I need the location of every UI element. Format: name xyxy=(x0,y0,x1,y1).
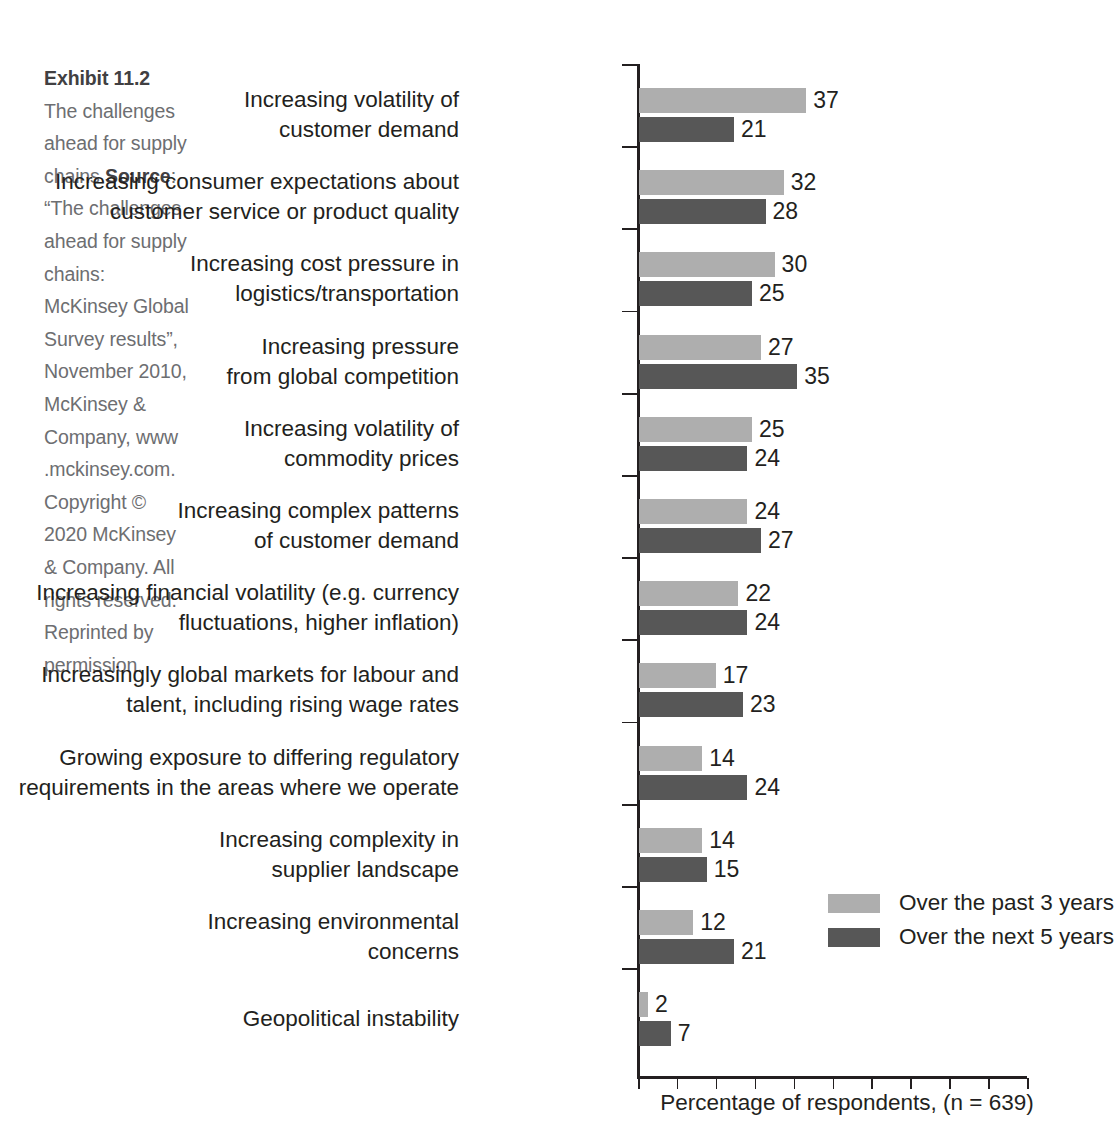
x-axis-tick xyxy=(949,1078,951,1089)
bar-group: Increasing volatility of customer demand… xyxy=(0,88,1116,142)
category-label: Geopolitical instability xyxy=(0,1004,459,1034)
bar-past-3-years xyxy=(639,417,752,442)
y-axis-tick xyxy=(622,557,638,559)
y-axis-tick xyxy=(622,722,638,724)
x-axis-tick xyxy=(638,1078,640,1089)
category-label: Increasing environmental concerns xyxy=(0,907,459,967)
category-label: Increasing cost pressure in logistics/tr… xyxy=(0,249,459,309)
bar-past-3-years xyxy=(639,170,784,195)
category-label: Increasing complexity in supplier landsc… xyxy=(0,825,459,885)
bar-value-label: 15 xyxy=(714,857,740,882)
bar-past-3-years xyxy=(639,499,747,524)
bar-group: Increasing pressure from global competit… xyxy=(0,335,1116,389)
bar-past-3-years xyxy=(639,663,716,688)
bar-value-label: 24 xyxy=(754,610,780,635)
x-axis-tick xyxy=(755,1078,757,1089)
y-axis-tick xyxy=(622,475,638,477)
bar-next-5-years xyxy=(639,1021,671,1046)
x-axis-tick xyxy=(716,1078,718,1089)
bar-next-5-years xyxy=(639,117,734,142)
x-axis-tick xyxy=(677,1078,679,1089)
bar-chart: Increasing volatility of customer demand… xyxy=(0,0,1116,1123)
y-axis-tick xyxy=(622,639,638,641)
category-label: Increasing complex patterns of customer … xyxy=(0,496,459,556)
x-axis-tick xyxy=(833,1078,835,1089)
bar-value-label: 12 xyxy=(700,910,726,935)
bar-next-5-years xyxy=(639,939,734,964)
bar-value-label: 7 xyxy=(678,1021,691,1046)
bar-value-label: 14 xyxy=(709,746,735,771)
bar-value-label: 27 xyxy=(768,528,794,553)
bar-next-5-years xyxy=(639,281,752,306)
chart-legend: Over the past 3 years Over the next 5 ye… xyxy=(828,886,1114,954)
bar-next-5-years xyxy=(639,528,761,553)
bar-past-3-years xyxy=(639,828,702,853)
x-axis-tick xyxy=(1027,1078,1029,1089)
category-label: Increasing pressure from global competit… xyxy=(0,332,459,392)
bar-past-3-years xyxy=(639,746,702,771)
y-axis-tick xyxy=(622,146,638,148)
bar-value-label: 30 xyxy=(782,252,808,277)
bar-group: Geopolitical instability27 xyxy=(0,992,1116,1046)
bar-group: Increasing financial volatility (e.g. cu… xyxy=(0,581,1116,635)
bar-value-label: 21 xyxy=(741,939,767,964)
bar-group: Increasing complexity in supplier landsc… xyxy=(0,828,1116,882)
y-axis-tick xyxy=(622,393,638,395)
bar-value-label: 21 xyxy=(741,117,767,142)
bar-group: Growing exposure to differing regulatory… xyxy=(0,746,1116,800)
bar-next-5-years xyxy=(639,692,743,717)
bar-value-label: 17 xyxy=(723,663,749,688)
bar-next-5-years xyxy=(639,364,797,389)
bar-past-3-years xyxy=(639,88,806,113)
legend-label: Over the next 5 years xyxy=(899,924,1114,950)
y-axis-tick xyxy=(622,228,638,230)
legend-item: Over the next 5 years xyxy=(828,920,1114,954)
x-axis-title: Percentage of respondents, (n = 639) xyxy=(637,1090,1057,1116)
category-label: Increasing volatility of commodity price… xyxy=(0,414,459,474)
category-label: Increasing volatility of customer demand xyxy=(0,85,459,145)
bar-group: Increasingly global markets for labour a… xyxy=(0,663,1116,717)
bar-group: Increasing complex patterns of customer … xyxy=(0,499,1116,553)
bar-next-5-years xyxy=(639,857,707,882)
y-axis-tick xyxy=(622,311,638,313)
x-axis-tick xyxy=(910,1078,912,1089)
y-axis-tick xyxy=(622,968,638,970)
y-axis-tick xyxy=(622,886,638,888)
bar-value-label: 28 xyxy=(773,199,799,224)
legend-swatch-icon xyxy=(828,894,880,913)
bar-past-3-years xyxy=(639,252,775,277)
bar-group: Increasing cost pressure in logistics/tr… xyxy=(0,252,1116,306)
legend-label: Over the past 3 years xyxy=(899,890,1114,916)
x-axis-tick xyxy=(988,1078,990,1089)
bar-value-label: 37 xyxy=(813,88,839,113)
bar-value-label: 14 xyxy=(709,828,735,853)
bar-past-3-years xyxy=(639,581,738,606)
bar-value-label: 24 xyxy=(754,446,780,471)
legend-swatch-icon xyxy=(828,928,880,947)
legend-item: Over the past 3 years xyxy=(828,886,1114,920)
bar-next-5-years xyxy=(639,446,747,471)
bar-next-5-years xyxy=(639,775,747,800)
bar-value-label: 32 xyxy=(791,170,817,195)
bar-next-5-years xyxy=(639,199,766,224)
category-label: Growing exposure to differing regulatory… xyxy=(0,743,459,803)
bar-value-label: 2 xyxy=(655,992,668,1017)
bar-next-5-years xyxy=(639,610,747,635)
bar-past-3-years xyxy=(639,992,648,1017)
x-axis-tick xyxy=(794,1078,796,1089)
bar-value-label: 22 xyxy=(745,581,771,606)
bar-value-label: 25 xyxy=(759,281,785,306)
bar-group: Increasing volatility of commodity price… xyxy=(0,417,1116,471)
bar-value-label: 35 xyxy=(804,364,830,389)
bar-value-label: 23 xyxy=(750,692,776,717)
y-axis-tick xyxy=(622,64,638,66)
bar-past-3-years xyxy=(639,335,761,360)
y-axis-tick xyxy=(622,804,638,806)
bar-group: Increasing consumer expectations about c… xyxy=(0,170,1116,224)
category-label: Increasing consumer expectations about c… xyxy=(0,167,459,227)
category-label: Increasingly global markets for labour a… xyxy=(0,660,459,720)
bar-past-3-years xyxy=(639,910,693,935)
bar-value-label: 27 xyxy=(768,335,794,360)
category-label: Increasing financial volatility (e.g. cu… xyxy=(0,578,459,638)
bar-value-label: 24 xyxy=(754,775,780,800)
